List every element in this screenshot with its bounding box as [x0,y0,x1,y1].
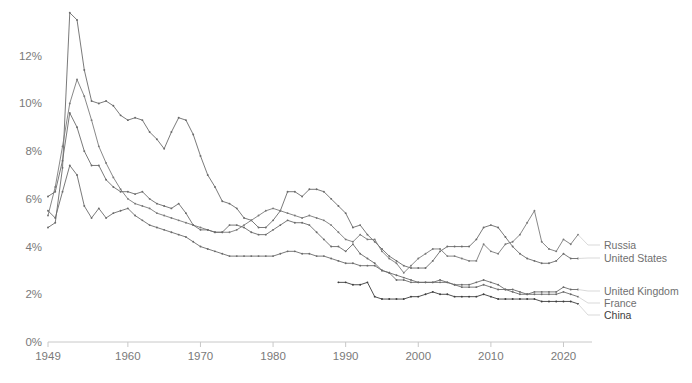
data-point [570,258,572,260]
data-point [548,248,550,250]
data-point [446,246,448,248]
data-point [533,291,535,293]
data-point [170,217,172,219]
data-point [563,286,565,288]
data-point [475,296,477,298]
data-point [497,289,499,291]
data-point [468,296,470,298]
legend-leader-line [578,290,600,291]
data-point [127,198,129,200]
data-point [265,227,267,229]
data-point [454,284,456,286]
x-tick-label: 2000 [405,350,431,362]
data-point [185,212,187,214]
x-tick-label: 1970 [188,350,214,362]
series-lines [47,12,579,305]
data-point [490,250,492,252]
data-point [555,293,557,295]
data-point [533,260,535,262]
data-point [170,131,172,133]
data-point [396,262,398,264]
data-point [156,138,158,140]
data-point [548,262,550,264]
data-point [83,205,85,207]
x-tick-label: 1960 [115,350,141,362]
data-point [519,291,521,293]
data-point [548,291,550,293]
data-point [134,203,136,205]
data-point [439,248,441,250]
data-point [120,114,122,116]
data-point [512,246,514,248]
data-point [236,255,238,257]
data-point [76,19,78,21]
data-point [403,277,405,279]
data-point [454,246,456,248]
data-point [192,224,194,226]
data-point [47,215,49,217]
data-point [512,289,514,291]
data-point [563,291,565,293]
data-point [120,188,122,190]
data-point [272,219,274,221]
data-point [149,207,151,209]
data-point [294,222,296,224]
data-point [83,150,85,152]
data-point [105,100,107,102]
data-point [265,234,267,236]
data-point [504,289,506,291]
data-point [308,215,310,217]
data-point [461,286,463,288]
y-tick-label: 10% [19,97,42,109]
data-point [570,293,572,295]
data-point [156,227,158,229]
data-point [316,188,318,190]
data-point [185,236,187,238]
data-point [388,258,390,260]
series-france [47,165,579,298]
legend-label-china[interactable]: China [604,309,632,321]
data-point [497,227,499,229]
data-point [236,207,238,209]
data-point [504,298,506,300]
data-point [258,227,260,229]
data-point [388,272,390,274]
data-point [156,203,158,205]
data-point [163,215,165,217]
data-point [512,241,514,243]
data-point [54,222,56,224]
data-point [490,296,492,298]
data-point [374,265,376,267]
data-point [308,188,310,190]
data-point [475,260,477,262]
legend-label-russia[interactable]: Russia [604,239,636,251]
data-point [258,215,260,217]
data-point [396,298,398,300]
data-point [221,231,223,233]
data-point [533,293,535,295]
legend-label-united-states[interactable]: United States [604,252,667,264]
data-point [483,279,485,281]
data-point [483,227,485,229]
data-point [316,255,318,257]
legend-label-united-kingdom[interactable]: United Kingdom [604,285,679,297]
data-point [519,293,521,295]
data-point [396,279,398,281]
series-united-states [47,12,579,269]
data-point [432,260,434,262]
y-tick-label: 4% [25,241,42,253]
data-point [417,267,419,269]
data-point [541,300,543,302]
data-point [432,281,434,283]
data-point [483,243,485,245]
data-point [105,162,107,164]
data-point [352,241,354,243]
data-point [381,298,383,300]
legend-label-france[interactable]: France [604,297,637,309]
series-line [48,113,578,294]
data-point [533,298,535,300]
y-tick-label: 2% [25,288,42,300]
data-point [69,102,71,104]
data-point [432,248,434,250]
data-point [374,262,376,264]
